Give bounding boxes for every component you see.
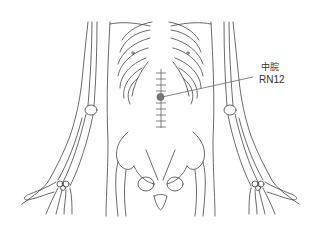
- pelvis: [116, 132, 206, 216]
- clavicles: [110, 23, 211, 26]
- ribcage-left: [118, 22, 152, 104]
- acupoint-code-label: RN12: [259, 74, 285, 85]
- forearm-bones: [58, 114, 263, 186]
- acupoint-name-label: 中脘: [261, 62, 279, 73]
- body-outline: [22, 22, 299, 216]
- acupoint-marker: [157, 93, 164, 100]
- leader-line: [162, 77, 253, 97]
- anatomy-diagram: [0, 0, 321, 236]
